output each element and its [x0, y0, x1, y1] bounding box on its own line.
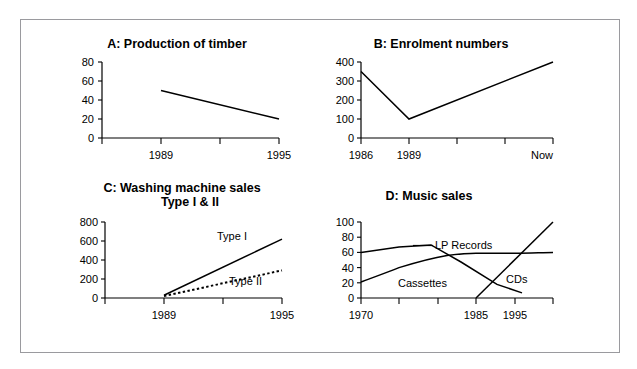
- chart-a-ytick-0: 0: [88, 132, 94, 144]
- chart-a-ytick-60: 60: [82, 75, 94, 87]
- partial-top-text-line: · · · · · · · · · · · · · · · · · · · · …: [0, 0, 637, 13]
- chart-c-title: C: Washing machine sales: [103, 181, 260, 195]
- chart-b-ytick-400: 400: [336, 56, 354, 68]
- chart-d-label-cassettes: Cassettes: [398, 277, 447, 289]
- chart-a-x-ticks: 1989 1995: [102, 138, 291, 161]
- chart-c-series-type-2: [164, 270, 282, 296]
- chart-c-ytick-400: 400: [80, 254, 98, 266]
- chart-a-ytick-80: 80: [82, 56, 94, 68]
- chart-c-ytick-0: 0: [92, 292, 98, 304]
- chart-a-series-timber: [161, 91, 279, 120]
- chart-d-y-ticks: 100 80 60 40 20 0: [336, 216, 361, 304]
- chart-d-xtick-1995: 1995: [503, 309, 527, 321]
- partial-top-text: · · · · · · · · · · · · · · · · · · · · …: [104, 0, 372, 1]
- chart-a-xtick-1995: 1995: [267, 149, 291, 161]
- chart-d-ytick-0: 0: [348, 292, 354, 304]
- chart-c-label-type-2: Type II: [229, 275, 262, 287]
- chart-b-xtick-now: Now: [531, 149, 553, 161]
- scanned-figure-page: · · · · · · · · · · · · · · · · · · · · …: [0, 0, 637, 369]
- chart-d-ytick-40: 40: [342, 262, 354, 274]
- chart-d-svg: D: Music sales 100 80 60 40 20 0: [321, 178, 583, 328]
- chart-c-ytick-600: 600: [80, 235, 98, 247]
- chart-panel-d: D: Music sales 100 80 60 40 20 0: [321, 178, 583, 328]
- chart-b-title: B: Enrolment numbers: [374, 37, 509, 51]
- chart-d-series-cds: [476, 222, 553, 298]
- chart-c-series-type-1: [164, 239, 282, 295]
- chart-d-label-cds: CDs: [506, 273, 528, 285]
- chart-d-ytick-100: 100: [336, 216, 354, 228]
- chart-b-xtick-1989: 1989: [397, 149, 421, 161]
- chart-c-subtitle: Type I & II: [161, 195, 219, 209]
- chart-b-y-ticks: 400 300 200 100 0: [336, 56, 361, 144]
- chart-a-title: A: Production of timber: [107, 37, 247, 51]
- chart-b-ytick-100: 100: [336, 113, 354, 125]
- chart-panel-a: A: Production of timber 80 60 40 20 0: [57, 34, 297, 169]
- chart-d-xtick-1970: 1970: [349, 309, 373, 321]
- chart-a-ytick-40: 40: [82, 94, 94, 106]
- chart-b-series-enrolment: [361, 62, 553, 119]
- chart-b-svg: B: Enrolment numbers 400 300 200 100 0: [321, 34, 583, 169]
- chart-d-ytick-20: 20: [342, 277, 354, 289]
- chart-c-svg: C: Washing machine sales Type I & II 800…: [57, 178, 307, 328]
- chart-d-ytick-80: 80: [342, 231, 354, 243]
- chart-a-ytick-20: 20: [82, 113, 94, 125]
- chart-c-ytick-200: 200: [80, 273, 98, 285]
- chart-panel-c: C: Washing machine sales Type I & II 800…: [57, 178, 307, 328]
- chart-d-x-ticks: 1970 1985 1995: [349, 298, 553, 321]
- chart-b-ytick-200: 200: [336, 94, 354, 106]
- figure-frame: A: Production of timber 80 60 40 20 0: [20, 19, 620, 353]
- chart-d-xtick-1985: 1985: [464, 309, 488, 321]
- chart-b-xtick-1986: 1986: [349, 149, 373, 161]
- chart-a-svg: A: Production of timber 80 60 40 20 0: [57, 34, 297, 169]
- chart-c-y-ticks: 800 600 400 200 0: [80, 216, 105, 304]
- chart-panel-b: B: Enrolment numbers 400 300 200 100 0: [321, 34, 583, 169]
- chart-c-xtick-1989: 1989: [152, 309, 176, 321]
- chart-b-x-ticks: 1986 1989 Now: [349, 138, 553, 161]
- chart-c-ytick-800: 800: [80, 216, 98, 228]
- chart-d-title: D: Music sales: [386, 189, 473, 203]
- chart-c-x-ticks: 1989 1995: [105, 298, 294, 321]
- chart-a-y-ticks: 80 60 40 20 0: [82, 56, 102, 144]
- chart-d-ytick-60: 60: [342, 246, 354, 258]
- chart-b-ytick-0: 0: [348, 132, 354, 144]
- chart-d-label-lp-records: LP Records: [435, 239, 493, 251]
- chart-c-label-type-1: Type I: [217, 230, 247, 242]
- chart-b-ytick-300: 300: [336, 75, 354, 87]
- chart-a-xtick-1989: 1989: [149, 149, 173, 161]
- chart-c-xtick-1995: 1995: [270, 309, 294, 321]
